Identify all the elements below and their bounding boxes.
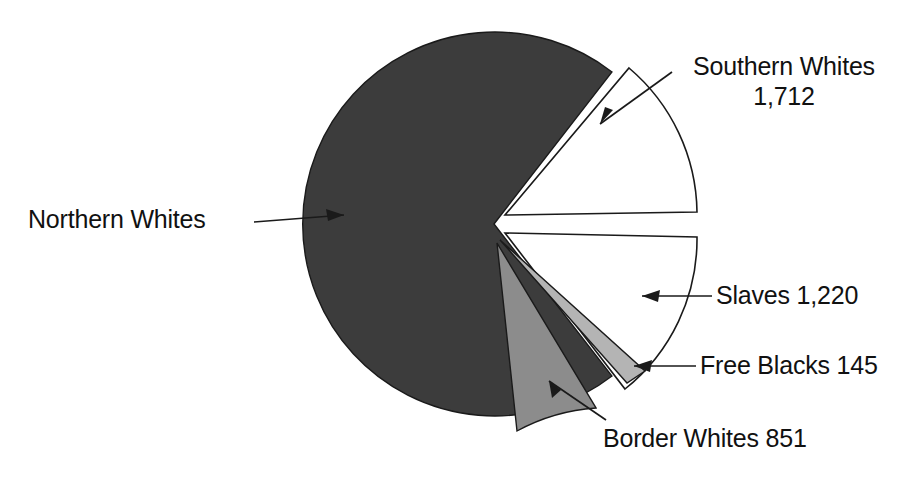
- pie-chart-figure: Northern Whites Southern Whites 1,712 Sl…: [0, 0, 907, 483]
- pie-label-slaves: Slaves 1,220: [716, 281, 858, 311]
- pie-slices: [303, 32, 697, 431]
- pie-label-southern-whites: Southern Whites 1,712: [672, 52, 896, 111]
- pie-label-southern-whites-value: 1,712: [753, 82, 815, 110]
- pie-label-northern-whites: Northern Whites: [28, 205, 206, 235]
- pie-label-border-whites: Border Whites 851: [603, 424, 807, 454]
- pie-label-free-blacks: Free Blacks 145: [700, 351, 878, 381]
- pie-label-southern-whites-name: Southern Whites: [693, 52, 875, 80]
